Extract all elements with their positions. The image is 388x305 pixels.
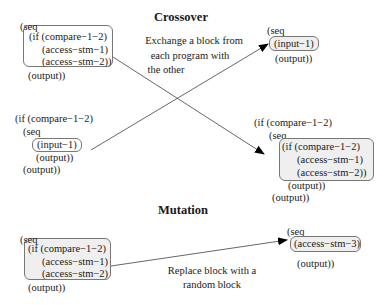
- code-line: (access−stm−1): [42, 44, 108, 56]
- code-line: (input−1): [37, 139, 77, 151]
- crossover-title: Crossover: [154, 10, 208, 25]
- code-line: (access−stm−3): [294, 238, 360, 250]
- mutation-caption-line-1: Replace block with a: [152, 264, 272, 278]
- code-line: (output)): [23, 164, 60, 176]
- crossover-caption-line-1: Exchange a block from: [138, 34, 250, 48]
- code-line: (access−stm−1): [42, 256, 108, 268]
- code-line: (output)): [36, 152, 73, 164]
- code-line: (output)): [297, 258, 334, 270]
- crossover-caption-line-3: the other: [126, 63, 206, 77]
- code-line: (if (compare−1−2): [282, 141, 360, 153]
- code-line: (if (compare−1−2): [254, 117, 332, 129]
- mutation-title: Mutation: [158, 203, 208, 218]
- code-line: (output)): [28, 70, 65, 82]
- code-line: (access−stm−1): [297, 154, 363, 166]
- code-line: (if (compare−1−2): [29, 31, 107, 43]
- code-line: (output)): [275, 53, 312, 65]
- code-line: (output)): [28, 282, 65, 294]
- code-line: (output)): [272, 192, 309, 204]
- code-line: (if (compare−1−2): [28, 243, 106, 255]
- code-line: (if (compare−1−2): [15, 113, 93, 125]
- crossover-caption-line-2: each program with: [138, 49, 242, 63]
- code-line: (access−stm−2)): [42, 56, 112, 68]
- code-line: (output)): [288, 180, 325, 192]
- mutation-arrow: [111, 240, 287, 266]
- code-line: (seq: [23, 126, 41, 138]
- mutation-caption-line-2: random block: [152, 278, 272, 292]
- code-line: (access−stm−2)): [297, 167, 367, 179]
- code-line: (access−stm−2): [42, 268, 108, 280]
- code-line: (input−1): [274, 38, 314, 50]
